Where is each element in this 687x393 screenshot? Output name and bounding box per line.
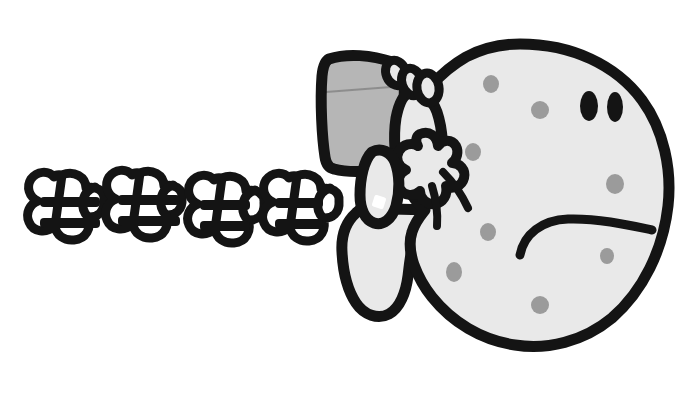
body-spot [446,262,462,282]
puff-line-1a [40,197,100,207]
puff-line-3a [200,200,250,210]
puff-line-3b [200,221,250,231]
body-spot [606,174,624,194]
knuckle-bump [415,71,442,104]
left-eye [580,91,598,121]
body-spot [483,75,499,93]
body-spot [531,101,549,119]
puff-line-2b [118,216,180,226]
body-spot [600,248,614,264]
body-spot [480,223,496,241]
puff-line-4b [275,219,323,229]
puff-line-4a [275,198,323,208]
cartoon-illustration: Angry spotted character running and thro… [0,0,687,393]
puff-line-2a [118,195,180,205]
puff-line-1b [40,218,100,228]
right-eye [607,92,623,122]
body-spot [465,143,481,161]
body-spot [531,296,549,314]
illustration-canvas: Angry spotted character running and thro… [0,0,687,393]
forearm [360,150,399,224]
